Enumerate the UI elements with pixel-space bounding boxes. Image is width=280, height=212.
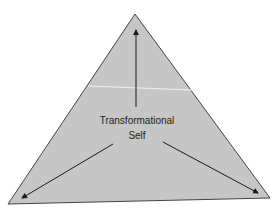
center-label-line2: Self [128,130,145,141]
diagram-canvas: Transformational Self [0,0,280,212]
triangle-diagram: Transformational Self [0,0,280,212]
triangle-shape [8,14,270,204]
center-label-line1: Transformational [100,115,175,126]
